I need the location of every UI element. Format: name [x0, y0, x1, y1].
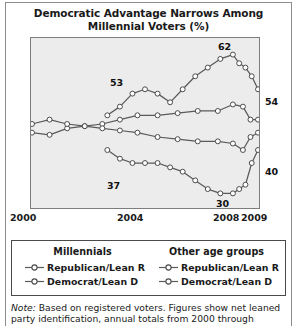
series-marker	[155, 113, 160, 118]
series-line	[107, 55, 258, 116]
x-axis: 2000 2004 2008 2009	[10, 212, 287, 228]
annotation-mill-rep-end: 40	[265, 166, 278, 177]
series-marker	[195, 109, 200, 114]
series-marker	[47, 132, 52, 137]
chart-title: Democratic Advantage Narrows Among Mille…	[10, 7, 287, 32]
open-circle-line-icon	[159, 277, 178, 286]
chart-note: Note: Based on registered voters. Figure…	[11, 302, 289, 324]
series-marker	[193, 74, 198, 79]
series-marker	[230, 141, 235, 146]
chart-title-line-2: Millennial Voters (%)	[10, 20, 287, 33]
legend: Millennials Republican/Lean R Democrat/L…	[11, 240, 286, 296]
series-marker	[249, 74, 254, 79]
series-marker	[130, 91, 135, 96]
series-marker	[117, 117, 122, 122]
series-marker	[243, 182, 248, 187]
chart-title-line-1: Democratic Advantage Narrows Among	[34, 7, 263, 19]
series-marker	[31, 122, 34, 127]
legend-item-millennials-democrat[interactable]: Democrat/Lean D	[14, 274, 151, 288]
series-marker	[82, 124, 87, 129]
legend-group-other-age-groups: Other age groups Republican/Lean R Democ…	[148, 246, 285, 288]
legend-item-other-democrat[interactable]: Democrat/Lean D	[148, 274, 285, 288]
series-marker	[130, 161, 135, 166]
legend-group-heading: Millennials	[14, 246, 151, 257]
legend-item-millennials-republican[interactable]: Republican/Lean R	[14, 260, 151, 274]
series-marker	[155, 161, 160, 166]
x-tick-2008: 2008	[213, 212, 239, 223]
series-marker	[248, 135, 253, 140]
open-circle-line-icon	[25, 277, 44, 286]
chart-area: 62 53 37 30 54 40 2000 2004 2008 2009	[10, 37, 287, 233]
series-marker	[168, 165, 173, 170]
series-marker	[215, 139, 220, 144]
series-marker	[218, 191, 223, 196]
series-marker	[168, 100, 173, 105]
series-marker	[31, 130, 34, 135]
series-marker	[256, 87, 259, 92]
x-tick-2000: 2000	[10, 212, 36, 223]
series-marker	[65, 122, 70, 127]
series-marker	[117, 156, 122, 161]
series-marker	[155, 135, 160, 140]
plot-region	[30, 37, 260, 209]
series-marker	[205, 65, 210, 70]
series-marker	[175, 137, 180, 142]
series-marker	[155, 91, 160, 96]
series-marker	[105, 113, 110, 118]
open-circle-line-icon	[25, 263, 44, 272]
series-marker	[256, 148, 259, 153]
series-marker	[100, 126, 105, 131]
open-circle-line-icon	[159, 263, 178, 272]
series-marker	[249, 161, 254, 166]
series-marker	[230, 102, 235, 107]
legend-group-heading: Other age groups	[148, 246, 285, 257]
series-marker	[237, 61, 242, 66]
note-line-2: party identification, annual totals from…	[11, 313, 254, 324]
legend-item-label: Republican/Lean R	[181, 262, 279, 273]
legend-item-label: Republican/Lean R	[47, 262, 145, 273]
series-marker	[117, 128, 122, 133]
annotation-mill-dem-end: 54	[265, 96, 278, 107]
annotation-mill-rep-start: 37	[107, 180, 120, 191]
note-prefix: Note:	[11, 302, 36, 313]
annotation-mill-rep-low: 30	[216, 198, 229, 209]
series-marker	[180, 169, 185, 174]
series-marker	[240, 148, 245, 153]
series-marker	[47, 117, 52, 122]
series-marker	[117, 104, 122, 109]
series-marker	[135, 130, 140, 135]
legend-item-label: Democrat/Lean D	[47, 276, 138, 287]
series-marker	[230, 52, 235, 57]
series-marker	[175, 111, 180, 116]
series-marker	[243, 65, 248, 70]
series-marker	[135, 113, 140, 118]
series-marker	[240, 104, 245, 109]
note-line-1: Based on registered voters. Figures show…	[36, 302, 280, 313]
series-marker	[193, 178, 198, 183]
series-marker	[143, 87, 148, 92]
series-marker	[237, 187, 242, 192]
series-marker	[218, 56, 223, 61]
series-marker	[180, 87, 185, 92]
legend-group-millennials: Millennials Republican/Lean R Democrat/L…	[14, 246, 151, 288]
series-marker	[105, 148, 110, 153]
legend-item-label: Democrat/Lean D	[181, 276, 272, 287]
x-tick-2009: 2009	[241, 212, 267, 223]
legend-item-other-republican[interactable]: Republican/Lean R	[148, 260, 285, 274]
series-marker	[205, 187, 210, 192]
series-marker	[143, 161, 148, 166]
chart-page: Democratic Advantage Narrows Among Mille…	[0, 0, 297, 328]
annotation-mill-dem-peak: 62	[218, 41, 231, 52]
series-canvas	[31, 38, 259, 208]
annotation-mill-dem-start: 53	[110, 77, 123, 88]
series-marker	[256, 117, 259, 122]
series-marker	[195, 139, 200, 144]
series-marker	[215, 109, 220, 114]
series-marker	[256, 130, 259, 135]
series-marker	[248, 117, 253, 122]
x-tick-2004: 2004	[117, 212, 143, 223]
series-marker	[230, 191, 235, 196]
